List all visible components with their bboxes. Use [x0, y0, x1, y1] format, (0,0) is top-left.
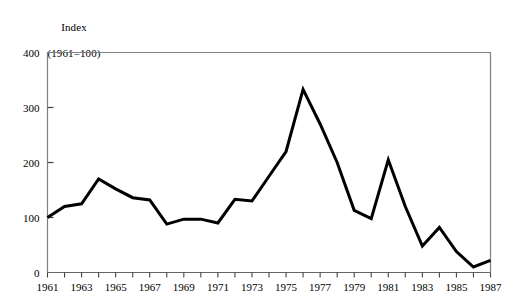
x-tick-label: 1965 [105, 281, 128, 293]
y-tick-label: 400 [23, 47, 40, 59]
x-tick-label: 1985 [445, 281, 468, 293]
x-tick-label: 1961 [37, 281, 59, 293]
x-tick-label: 1979 [343, 281, 366, 293]
y-tick-label: 300 [23, 102, 40, 114]
line-chart-plot: 0100200300400 19611963196519671969197119… [0, 0, 514, 303]
series-line-index [48, 89, 491, 267]
x-axis-tick-labels: 1961196319651967196919711973197519771979… [37, 281, 503, 293]
plot-border [48, 53, 491, 273]
x-tick-label: 1977 [309, 281, 332, 293]
y-tick-label: 100 [23, 212, 40, 224]
x-tick-label: 1969 [173, 281, 196, 293]
x-axis-ticks [48, 273, 491, 278]
x-tick-label: 1981 [377, 281, 399, 293]
y-tick-label: 0 [34, 267, 40, 279]
x-tick-label: 1987 [480, 281, 503, 293]
x-tick-label: 1963 [71, 281, 94, 293]
x-tick-label: 1971 [207, 281, 229, 293]
data-series-line [48, 89, 491, 267]
plot-frame [48, 53, 491, 273]
x-tick-label: 1967 [139, 281, 162, 293]
y-axis-ticks [48, 108, 54, 218]
y-axis-tick-labels: 0100200300400 [23, 47, 40, 279]
y-tick-label: 200 [23, 157, 40, 169]
chart-container: Index (1961=100) 0100200300400 196119631… [0, 0, 514, 303]
x-tick-label: 1973 [241, 281, 264, 293]
x-tick-label: 1975 [275, 281, 298, 293]
x-tick-label: 1983 [411, 281, 434, 293]
